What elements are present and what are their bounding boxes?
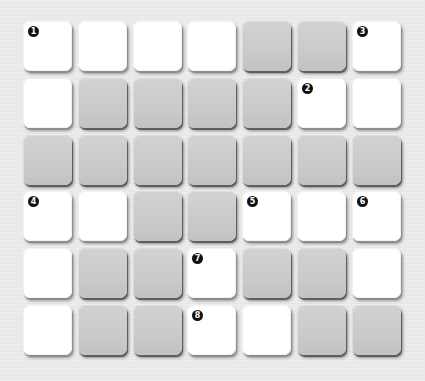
clue-number-badge: 6 (357, 196, 368, 207)
grid-cell-blocked (242, 21, 291, 71)
grid-cell-open[interactable] (78, 191, 127, 241)
grid-cell-blocked (297, 21, 346, 71)
grid-cell-open[interactable] (242, 305, 291, 355)
grid-cell-blocked (352, 305, 401, 355)
grid-cell-blocked (352, 135, 401, 185)
grid-cell-blocked (78, 135, 127, 185)
clue-number-badge: 5 (247, 196, 258, 207)
clue-number-badge: 7 (192, 253, 203, 264)
grid-cell-blocked (133, 191, 182, 241)
grid-cell-blocked (242, 248, 291, 298)
grid-cell-open[interactable] (352, 78, 401, 128)
grid-cell-blocked (78, 248, 127, 298)
grid-cell-open[interactable]: 5 (242, 191, 291, 241)
grid-cell-blocked (78, 305, 127, 355)
grid-cell-open[interactable] (187, 21, 236, 71)
grid-cell-open[interactable] (23, 305, 72, 355)
grid-cell-open[interactable]: 8 (187, 305, 236, 355)
clue-number-badge: 3 (357, 26, 368, 37)
grid-cell-open[interactable] (23, 78, 72, 128)
grid-cell-blocked (297, 135, 346, 185)
clue-number-badge: 4 (28, 196, 39, 207)
clue-number-badge: 8 (192, 310, 203, 321)
grid-cell-blocked (133, 248, 182, 298)
grid-cell-blocked (78, 78, 127, 128)
grid-cell-blocked (242, 78, 291, 128)
grid-cell-blocked (187, 135, 236, 185)
clue-number-badge: 2 (302, 83, 313, 94)
grid-cell-open[interactable] (133, 21, 182, 71)
grid-cell-open[interactable]: 7 (187, 248, 236, 298)
grid-cell-open[interactable] (23, 248, 72, 298)
grid-cell-blocked (242, 135, 291, 185)
grid-cell-blocked (23, 135, 72, 185)
grid-cell-blocked (187, 78, 236, 128)
clue-number-badge: 1 (28, 26, 39, 37)
grid-cell-open[interactable] (297, 191, 346, 241)
grid-cell-blocked (297, 305, 346, 355)
grid-cell-open[interactable]: 2 (297, 78, 346, 128)
grid-cell-blocked (133, 305, 182, 355)
grid-cell-open[interactable]: 4 (23, 191, 72, 241)
grid-cell-blocked (133, 78, 182, 128)
grid-cell-open[interactable]: 1 (23, 21, 72, 71)
grid-cell-blocked (187, 191, 236, 241)
grid-cell-blocked (297, 248, 346, 298)
grid-cell-open[interactable] (352, 248, 401, 298)
grid-cell-open[interactable]: 3 (352, 21, 401, 71)
grid-cell-open[interactable]: 6 (352, 191, 401, 241)
grid-cell-open[interactable] (78, 21, 127, 71)
grid-cell-blocked (133, 135, 182, 185)
